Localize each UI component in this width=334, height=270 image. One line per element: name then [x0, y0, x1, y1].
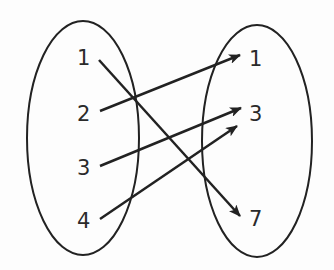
domain-element-label: 3 — [77, 156, 90, 180]
range-element-label: 7 — [249, 207, 262, 231]
domain-element-label: 4 — [77, 209, 90, 233]
range-element-label: 1 — [249, 47, 262, 71]
arrow-4-to-3 — [100, 126, 237, 219]
mapping-diagram-svg: 1 2 3 4 1 3 7 — [0, 0, 334, 270]
domain-element-label: 1 — [77, 46, 90, 70]
range-element-label: 3 — [249, 102, 262, 126]
domain-element-label: 2 — [77, 102, 90, 126]
mapping-diagram: 1 2 3 4 1 3 7 — [0, 0, 334, 270]
